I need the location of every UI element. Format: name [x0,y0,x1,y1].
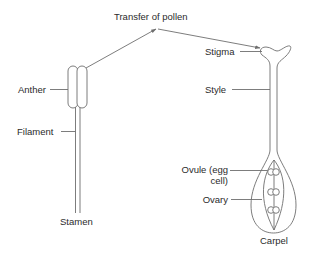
stamen: Anther Filament Stamen [17,66,93,227]
pollen-transfer: Transfer of pollen [86,11,260,68]
pollination-diagram: Transfer of pollen Anther Filament Stame… [0,0,315,257]
transfer-label: Transfer of pollen [114,11,188,22]
ovule-icon [273,189,280,196]
carpel-outline [251,46,296,233]
ovary-label: Ovary [203,194,229,205]
ovule-label-line1: Ovule (egg [182,164,228,175]
filament-label: Filament [17,126,54,137]
ovule-label-line2: cell) [211,175,228,186]
stigma-label: Stigma [205,46,235,57]
anther-lobe-left [68,66,78,108]
style-label: Style [205,84,226,95]
carpel-label: Carpel [260,235,288,246]
anther-lobe-right [77,66,87,108]
ovule-icon [273,169,280,176]
ovule-icon [273,207,280,214]
transfer-arrow-up [86,29,156,68]
anther-label: Anther [18,84,46,95]
carpel: Stigma Style Ovule (egg cell) Ovary Carp… [182,46,296,246]
stamen-label: Stamen [60,216,93,227]
